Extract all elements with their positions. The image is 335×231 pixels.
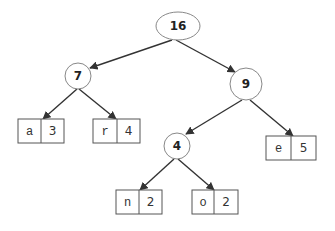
node-label: 7 (74, 69, 82, 83)
edge-9-e (250, 100, 293, 136)
leaf-freq: 2 (147, 195, 155, 209)
leaf-a: a 3 (18, 119, 64, 143)
edge-7-a (43, 89, 77, 119)
leaf-char: o (199, 196, 206, 210)
leaf-freq: 5 (300, 141, 308, 155)
leaf-freq: 2 (222, 195, 230, 209)
leaf-r: r 4 (93, 119, 140, 143)
internal-node-9: 9 (230, 68, 262, 100)
edge-16-9 (176, 40, 235, 72)
root-node: 16 (156, 12, 200, 40)
root-label: 16 (170, 19, 187, 33)
edge-4-o (178, 159, 214, 190)
leaf-char: a (26, 125, 33, 139)
node-label: 9 (242, 77, 250, 91)
leaf-char: r (101, 125, 108, 139)
leaf-char: e (275, 142, 282, 156)
leaf-freq: 3 (49, 124, 57, 138)
leaf-freq: 4 (125, 124, 133, 138)
internal-node-4: 4 (164, 133, 190, 159)
edges (43, 40, 293, 190)
leaf-n: n 2 (116, 190, 162, 214)
edge-9-4 (186, 100, 242, 134)
leaf-char: n (124, 196, 131, 210)
leaf-o: o 2 (192, 190, 238, 214)
edge-4-n (140, 159, 174, 190)
leaf-e: e 5 (266, 136, 316, 160)
edge-7-r (79, 89, 116, 119)
edge-16-7 (90, 40, 172, 68)
internal-node-7: 7 (65, 63, 91, 89)
node-label: 4 (173, 139, 181, 153)
huffman-tree-diagram: 16 7 9 4 a 3 r 4 e 5 n 2 o (0, 0, 335, 231)
